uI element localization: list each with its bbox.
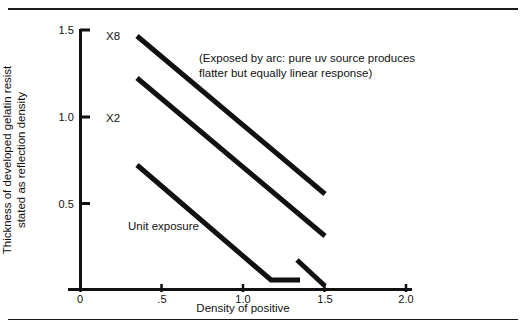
ytick-label-1_0: 1.0	[48, 111, 74, 123]
x-axis-label: Density of positive	[196, 302, 289, 314]
series-line-x2	[137, 78, 325, 236]
series-line-unit-exposure-tail	[297, 260, 325, 286]
series-label-unit-exposure: Unit exposure	[128, 220, 199, 232]
ytick-label-1_5: 1.5	[48, 24, 74, 36]
y-axis-label: Thickness of developed gelatin resist st…	[0, 66, 28, 255]
ytick-label-0_5: 0.5	[48, 198, 74, 210]
exposure-note-annotation: (Exposed by arc: pure uv source produces…	[199, 51, 415, 80]
figure-container: 1.5 1.0 0.5 0 .5 1.0 1.5 2.0 Thickness o…	[0, 0, 526, 326]
series-label-x8: X8	[106, 30, 120, 42]
xtick-label-2_0: 2.0	[398, 293, 414, 305]
series-label-x2: X2	[106, 112, 120, 124]
xtick-label-0: 0	[77, 293, 83, 305]
plot-area	[0, 0, 526, 326]
xtick-label-1_5: 1.5	[317, 293, 333, 305]
xtick-label-0_5: .5	[157, 293, 166, 305]
y-axis-label-line-1: Thickness of developed gelatin resist	[0, 66, 14, 255]
exposure-note-line-2: flatter but equally linear response)	[199, 66, 415, 81]
y-axis-label-line-2: stated as reflection density	[14, 66, 28, 255]
exposure-note-line-1: (Exposed by arc: pure uv source produces	[199, 51, 415, 66]
